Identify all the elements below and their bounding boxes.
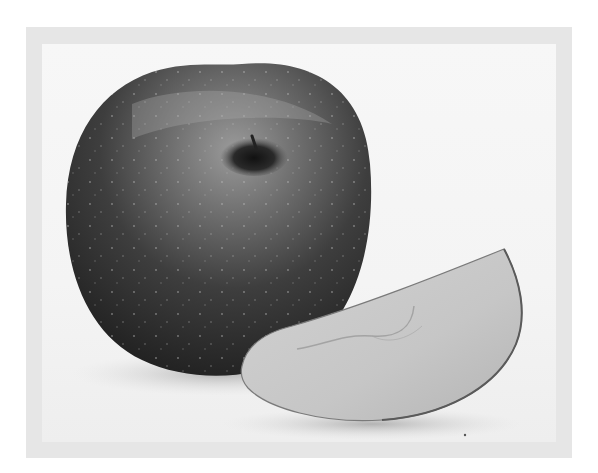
apple-photo: A whole apple with a cut wedge slice res…	[42, 44, 556, 442]
photo-frame: A whole apple with a cut wedge slice res…	[26, 27, 572, 458]
